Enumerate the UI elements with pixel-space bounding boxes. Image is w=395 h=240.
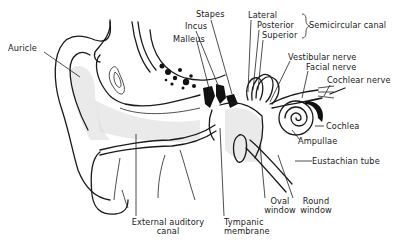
lobe-fold (122, 190, 128, 208)
label-round-window: Round window (297, 197, 335, 215)
label-lateral: Lateral (248, 11, 277, 20)
earlobe (91, 152, 128, 214)
label-vestibular-nerve: Vestibular nerve (288, 53, 356, 62)
label-facial-nerve: Facial nerve (306, 63, 356, 72)
label-cochlear-nerve: Cochlear nerve (327, 76, 391, 85)
mastoid-air-cells (160, 64, 197, 90)
canal-groove-3 (180, 150, 195, 200)
cochlear-nerve (330, 88, 345, 94)
label-malleus: Malleus (173, 35, 205, 44)
label-eustachian-tube: Eustachian tube (312, 157, 380, 166)
label-posterior: Posterior (257, 21, 294, 30)
stapes (226, 94, 238, 108)
label-stapes: Stapes (196, 10, 225, 19)
cochlea (279, 101, 323, 135)
label-ampullae: Ampullae (298, 137, 337, 146)
label-external-canal-line2: canal (128, 227, 208, 236)
incus (216, 84, 226, 104)
ear-anatomy-diagram: Auricle Stapes Incus Malleus Lateral Pos… (0, 0, 395, 240)
antihelix (109, 67, 124, 94)
canal-groove-2 (158, 155, 165, 198)
label-semicircular-canal: Semicircular canal (309, 21, 386, 30)
skull-line-1 (132, 22, 150, 72)
label-tympanic-membrane: Tympanic membrane (224, 218, 270, 236)
label-oval-window-line2: window (262, 206, 298, 215)
label-oval-window: Oval window (262, 197, 298, 215)
label-tympanic-line2: membrane (224, 227, 270, 236)
label-auricle: Auricle (8, 44, 37, 53)
canal-groove-1 (114, 158, 120, 200)
label-external-auditory-canal: External auditory canal (128, 218, 208, 236)
label-superior: Superior (262, 31, 297, 40)
label-cochlea: Cochlea (326, 122, 359, 131)
label-round-window-line2: window (297, 206, 335, 215)
canal-upper-wall (120, 108, 200, 114)
label-incus: Incus (185, 22, 207, 31)
